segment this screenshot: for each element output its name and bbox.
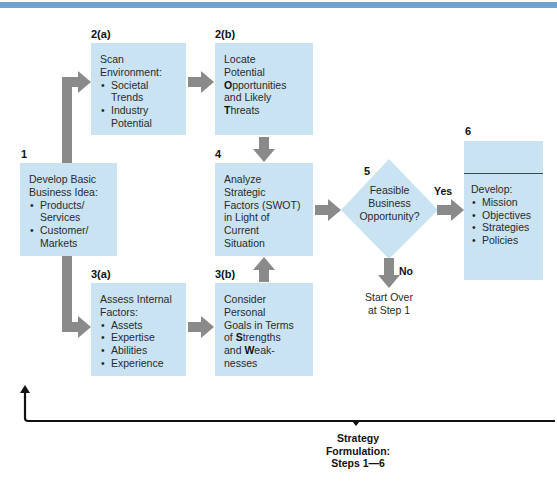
step-3b-line4: of Strengths [224, 331, 309, 344]
step-3b-line1: Consider [224, 293, 309, 306]
arrow-5-no [378, 258, 400, 288]
step-6-box: Develop: Mission Objectives Strategies P… [464, 141, 543, 280]
step-2a-label: 2(a) [91, 28, 111, 40]
step-6-item: Objectives [471, 209, 539, 222]
weaknesses-prefix: and [224, 344, 244, 356]
step-2a-title-line2: Environment: [100, 66, 182, 79]
step-4-line: Current [224, 224, 309, 237]
step-3a-label: 3(a) [91, 268, 111, 280]
step-2b-line3: Opportunities [224, 79, 309, 92]
step-2b-line5: Threats [224, 104, 309, 117]
start-over-line1: Start Over [354, 291, 424, 304]
step-3b-line6: nesses [224, 357, 309, 370]
step-5-line: Business [341, 197, 438, 210]
step-6-item: Mission [471, 196, 539, 209]
footer-line2: Formulation: [318, 445, 398, 458]
arrow-4-to-5 [315, 199, 341, 221]
step-3b-line2: Personal [224, 306, 309, 319]
footer-line3: Steps 1—6 [318, 457, 398, 470]
step-1-box: Develop Basic Business Idea: Products/ S… [20, 163, 117, 256]
arrow-1-to-2a [62, 71, 91, 163]
arrow-2a-to-2b [188, 71, 214, 93]
footer-line1: Strategy [318, 432, 398, 445]
feedback-loop [25, 391, 555, 421]
step-5-line: Feasible [341, 184, 438, 197]
step-3b-line3: Goals in Terms [224, 319, 309, 332]
strategy-formulation-label: Strategy Formulation: Steps 1—6 [318, 432, 398, 470]
step-1-title-line2: Business Idea: [29, 186, 113, 199]
arrow-2b-to-4 [253, 137, 275, 162]
strengths-prefix: of [224, 331, 236, 343]
step-5-question: Feasible Business Opportunity? [341, 184, 438, 223]
arrow-3a-to-3b [188, 316, 214, 338]
yes-label: Yes [434, 185, 452, 197]
step-1-title-line1: Develop Basic [29, 173, 113, 186]
step-1-item: Products/ Services [29, 199, 100, 225]
step-5-line: Opportunity? [341, 210, 438, 223]
step-6-divider [464, 173, 543, 174]
step-2a-item: Societal Trends [100, 79, 163, 105]
step-2b-line4: and Likely [224, 91, 309, 104]
step-4-line: in Light of [224, 211, 309, 224]
opportunities-rest: pportunities [232, 79, 286, 91]
arrow-3b-to-4 [253, 257, 275, 282]
opportunities-initial: O [224, 79, 232, 91]
step-2a-title-line1: Scan [100, 53, 182, 66]
arrow-5-to-6-yes [437, 199, 464, 221]
start-over-line2: at Step 1 [354, 304, 424, 317]
weaknesses-initial: W [244, 344, 254, 356]
step-6-item: Strategies [471, 221, 539, 234]
step-1-label: 1 [21, 148, 27, 160]
step-3a-item: Assets [100, 319, 182, 332]
step-2b-line2: Potential [224, 66, 309, 79]
start-over-label: Start Over at Step 1 [354, 291, 424, 317]
step-4-line: Situation [224, 237, 309, 250]
step-1-item: Customer/ Markets [29, 224, 100, 250]
step-2b-label: 2(b) [215, 28, 235, 40]
step-3a-title-line1: Assess Internal [100, 293, 182, 306]
strengths-rest: trengths [243, 331, 281, 343]
step-3b-label: 3(b) [215, 268, 235, 280]
no-label: No [399, 265, 413, 277]
step-4-line: Strategic [224, 186, 309, 199]
step-3a-item: Expertise [100, 331, 182, 344]
strengths-initial: S [236, 331, 243, 343]
step-4-line: Analyze [224, 173, 309, 186]
step-2b-box: Locate Potential Opportunities and Likel… [215, 43, 313, 135]
feedback-arrowhead [20, 385, 30, 393]
step-2b-line1: Locate [224, 53, 309, 66]
weaknesses-rest: eak- [254, 344, 274, 356]
step-3a-item: Abilities [100, 344, 182, 357]
step-2a-box: Scan Environment: Societal Trends Indust… [91, 43, 186, 135]
step-6-item: Policies [471, 234, 539, 247]
step-6-label: 6 [465, 125, 471, 137]
step-3a-box: Assess Internal Factors: Assets Expertis… [91, 283, 186, 376]
step-3a-item: Experience [100, 357, 182, 370]
step-4-line: Factors (SWOT) [224, 199, 309, 212]
arrow-1-to-3a [62, 256, 91, 338]
step-3a-title-line2: Factors: [100, 306, 182, 319]
step-3b-line5: and Weak- [224, 344, 309, 357]
step-5-label: 5 [364, 165, 370, 177]
feedback-brace-tick [352, 421, 360, 426]
step-3b-box: Consider Personal Goals in Terms of Stre… [215, 283, 313, 376]
step-6-title: Develop: [471, 183, 539, 196]
step-4-box: Analyze Strategic Factors (SWOT) in Ligh… [215, 163, 313, 256]
threats-rest: hreats [230, 104, 259, 116]
step-2a-item: Industry Potential [100, 104, 163, 130]
step-4-label: 4 [215, 148, 221, 160]
